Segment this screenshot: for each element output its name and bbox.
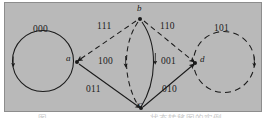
self-loop-a-000 xyxy=(13,31,74,92)
edge-b-a-111 xyxy=(79,21,136,60)
figure-caption: 图 状态转移图的实例 xyxy=(0,113,266,127)
caption-right-fragment: 状态转移图的实例 xyxy=(150,113,222,118)
state-diagram-graphic xyxy=(5,3,262,112)
figure-panel: a b c d 000 101 111 110 100 001 011 010 xyxy=(4,2,262,112)
edge-b-c-001 xyxy=(141,22,155,107)
node-dot-b xyxy=(138,17,142,21)
node-dot-c xyxy=(139,106,143,110)
caption-left-fragment: 图 xyxy=(38,113,47,118)
screenshot-root: a b c d 000 101 111 110 100 001 011 010 … xyxy=(0,0,266,127)
node-dot-a xyxy=(75,60,79,64)
self-loop-d-101 xyxy=(194,32,255,93)
edge-b-c-100 xyxy=(126,22,140,107)
node-dot-d xyxy=(193,61,197,65)
